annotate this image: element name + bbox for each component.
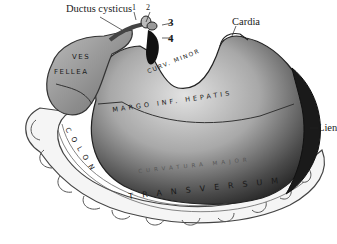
label-ves: VES: [72, 53, 90, 61]
label-1: 1: [132, 3, 136, 12]
label-3: 3: [168, 16, 174, 28]
label-fellea: FELLEA: [54, 68, 88, 76]
label-ductus-cysticus: Ductus cysticus: [66, 3, 132, 14]
label-2: 2: [146, 3, 150, 12]
label-4: 4: [168, 32, 174, 44]
label-lien: Lien: [318, 122, 337, 133]
label-cardia: Cardia: [232, 16, 260, 27]
